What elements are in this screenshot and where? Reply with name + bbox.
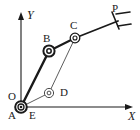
link-C-P	[75, 21, 118, 38]
point-label-O: O	[8, 91, 16, 102]
point-label-C: C	[70, 20, 77, 31]
joint-D	[44, 88, 53, 97]
thick-links-group	[21, 21, 118, 107]
y-axis-label: Y	[27, 9, 34, 21]
point-label-D: D	[60, 87, 68, 98]
gripper-jaw-lower	[118, 24, 131, 26]
x-axis-label: X	[128, 110, 135, 122]
linkage-diagram: Y X O A E B C D P	[0, 0, 140, 130]
point-label-P: P	[112, 3, 118, 14]
point-label-B: B	[43, 33, 50, 44]
joint-B	[43, 45, 54, 56]
point-label-A: A	[8, 110, 16, 121]
y-axis-arrowhead	[18, 12, 24, 20]
point-label-E: E	[29, 110, 36, 121]
link-A-B	[21, 51, 49, 107]
joint-A	[15, 101, 27, 113]
joint-C	[70, 33, 80, 43]
gripper-icon	[112, 12, 131, 29]
